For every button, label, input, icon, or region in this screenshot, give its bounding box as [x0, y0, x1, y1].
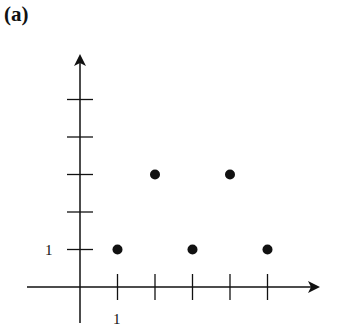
data-points: [113, 170, 273, 255]
data-point: [263, 245, 273, 255]
data-point: [225, 170, 235, 180]
x-tick-label: 1: [113, 311, 121, 327]
data-point: [113, 245, 123, 255]
scatter-plot: 1 1: [0, 0, 350, 328]
data-point: [150, 170, 160, 180]
data-point: [188, 245, 198, 255]
y-tick-label: 1: [45, 242, 53, 258]
